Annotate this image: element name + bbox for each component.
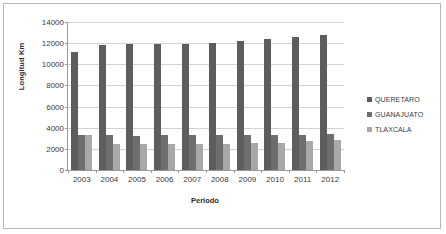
x-tick-mark [289,170,290,173]
bar[interactable] [85,135,92,170]
bar-group [96,22,124,170]
legend-item-tlaxcala[interactable]: TLAXCALA [367,122,441,137]
bar-group [289,22,317,170]
bar[interactable] [140,144,147,170]
bar[interactable] [189,135,196,170]
legend-swatch-icon [367,127,372,132]
x-tick-mark [68,170,69,173]
x-tick-label: 2011 [294,175,311,184]
bar[interactable] [113,144,120,170]
bar[interactable] [320,35,327,170]
x-tick-label: 2009 [238,175,256,184]
x-tick-mark [151,170,152,173]
legend-label: QUERETARO [375,96,420,103]
bar[interactable] [264,39,271,170]
legend-swatch-icon [367,97,372,102]
bar[interactable] [334,140,341,170]
y-tick-label: 12000 [42,39,64,48]
x-tick-label: 2005 [128,175,146,184]
bar[interactable] [251,143,258,170]
bar[interactable] [196,144,203,170]
y-tick-label: 2000 [46,144,64,153]
bar[interactable] [306,141,313,170]
legend-label: TLAXCALA [375,126,412,133]
plot-area: 02000400060008000100001200014000 2003200… [67,22,344,171]
x-tick-label: 2003 [73,175,91,184]
bar[interactable] [327,134,334,170]
x-tick-mark [316,170,317,173]
bar[interactable] [126,44,133,170]
x-tick-label: 2008 [211,175,229,184]
bar[interactable] [154,44,161,170]
x-tick-mark [344,170,345,173]
x-tick-mark [123,170,124,173]
legend-label: GUANAJUATO [375,111,423,118]
bar[interactable] [78,135,85,170]
y-tick-label: 4000 [46,123,64,132]
x-tick-label: 2006 [156,175,174,184]
legend-swatch-icon [367,112,372,117]
bar[interactable] [161,135,168,170]
chart-container: Longitud Km 0200040006000800010000120001… [3,3,441,229]
y-axis-title: Longitud Km [17,17,26,117]
bar[interactable] [99,45,106,170]
bar[interactable] [209,43,216,170]
x-tick-mark [96,170,97,173]
bar[interactable] [106,135,113,170]
bar-group [68,22,96,170]
bar[interactable] [278,143,285,170]
bar-group [123,22,151,170]
bar[interactable] [168,144,175,170]
y-tick-label: 0 [60,166,64,175]
x-tick-label: 2010 [266,175,284,184]
bar-group [234,22,262,170]
y-tick-label: 6000 [46,102,64,111]
bar[interactable] [237,41,244,171]
bar[interactable] [299,135,306,170]
bar-group [151,22,179,170]
x-tick-label: 2004 [100,175,118,184]
bar[interactable] [244,135,251,170]
bar-group [206,22,234,170]
chart-legend: QUERETAROGUANAJUATOTLAXCALA [367,92,441,137]
x-tick-label: 2007 [183,175,201,184]
y-tick-label: 8000 [46,81,64,90]
x-tick-label: 2012 [321,175,339,184]
legend-item-queretaro[interactable]: QUERETARO [367,92,441,107]
bar-group [261,22,289,170]
x-tick-mark [178,170,179,173]
bars-layer [68,22,344,170]
x-tick-mark [206,170,207,173]
x-tick-mark [261,170,262,173]
bar[interactable] [271,135,278,170]
bar[interactable] [133,136,140,170]
bar[interactable] [216,135,223,170]
bar-group [178,22,206,170]
bar[interactable] [182,44,189,170]
y-tick-label: 14000 [42,18,64,27]
bar[interactable] [223,144,230,170]
y-tick-label: 10000 [42,60,64,69]
bar-group [316,22,344,170]
bar[interactable] [292,37,299,170]
legend-item-guanajuato[interactable]: GUANAJUATO [367,107,441,122]
x-tick-mark [234,170,235,173]
x-axis-title: Periodo [67,196,343,205]
bar[interactable] [71,52,78,170]
